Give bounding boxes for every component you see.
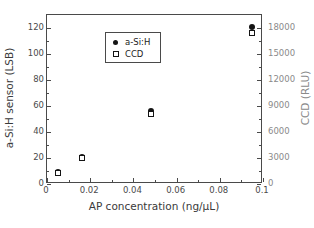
legend-marker-shape — [113, 40, 118, 45]
legend-entry-a-si-h: a-Si:H — [111, 36, 160, 48]
y-left-tick-minor — [47, 119, 49, 120]
x-axis-title: AP concentration (ng/µL) — [89, 200, 220, 212]
y-right-tick — [257, 80, 261, 81]
data-point-square — [79, 155, 85, 161]
legend-label: a-Si:H — [125, 38, 150, 47]
data-point-circle — [249, 24, 255, 30]
y-left-tick-label: 40 — [33, 127, 44, 136]
x-tick-label: 0.08 — [209, 186, 228, 195]
y-left-tick-minor — [47, 41, 49, 42]
y-right-tick — [257, 106, 261, 107]
y-left-tick-minor — [47, 93, 49, 94]
y-left-tick-minor — [47, 171, 49, 172]
y-right-tick-label: 0 — [268, 179, 273, 188]
y-left-tick-label: 100 — [28, 49, 44, 58]
y-axis-right-title: CCD (RLU) — [299, 71, 311, 126]
x-tick — [263, 178, 264, 182]
x-tick-minor — [69, 180, 70, 182]
y-right-tick-label: 18000 — [268, 23, 295, 32]
y-left-tick-label: 120 — [28, 23, 44, 32]
y-right-tick-label: 9000 — [268, 101, 290, 110]
y-left-tick-label: 20 — [33, 153, 44, 162]
chart-legend: a-Si:HCCD — [105, 32, 161, 63]
y-right-tick-minor — [259, 145, 261, 146]
y-right-tick-label: 3000 — [268, 153, 290, 162]
y-right-tick-label: 15000 — [268, 49, 295, 58]
y-right-tick-minor — [259, 41, 261, 42]
y-left-tick — [47, 80, 51, 81]
x-tick-minor — [198, 180, 199, 182]
y-right-tick-minor — [259, 93, 261, 94]
x-tick-minor — [155, 180, 156, 182]
y-right-tick — [257, 28, 261, 29]
y-left-tick — [47, 132, 51, 133]
x-tick-label: 0.06 — [166, 186, 185, 195]
y-right-tick-minor — [259, 171, 261, 172]
x-tick-minor — [112, 180, 113, 182]
y-left-tick — [47, 158, 51, 159]
y-right-tick — [257, 54, 261, 55]
y-right-tick-label: 6000 — [268, 127, 290, 136]
y-left-tick-label: 80 — [33, 75, 44, 84]
y-left-tick-label: 0 — [39, 179, 44, 188]
plot-area: a-Si:HCCD — [46, 14, 262, 183]
data-point-square — [55, 170, 61, 176]
y-right-tick-label: 12000 — [268, 75, 295, 84]
y-left-tick-label: 60 — [33, 101, 44, 110]
y-left-tick-minor — [47, 67, 49, 68]
legend-entry-ccd: CCD — [111, 48, 160, 60]
x-tick-minor — [241, 180, 242, 182]
y-right-tick — [257, 158, 261, 159]
y-left-tick-minor — [47, 145, 49, 146]
data-point-square — [148, 111, 154, 117]
y-right-tick-minor — [259, 67, 261, 68]
y-right-tick-minor — [259, 119, 261, 120]
open-square-icon — [111, 51, 120, 57]
x-tick — [90, 178, 91, 182]
x-tick — [220, 178, 221, 182]
legend-marker-shape — [113, 51, 119, 57]
x-tick — [133, 178, 134, 182]
legend-label: CCD — [125, 50, 143, 59]
x-tick-label: 0.1 — [255, 186, 269, 195]
x-tick-label: 0.02 — [80, 186, 99, 195]
data-point-square — [249, 30, 255, 36]
x-tick — [177, 178, 178, 182]
x-tick — [47, 178, 48, 182]
y-left-tick — [47, 54, 51, 55]
y-right-tick — [257, 132, 261, 133]
y-left-tick — [47, 106, 51, 107]
chart-figure: a-Si:HCCD 00.020.040.060.080.1 020406080… — [0, 0, 314, 228]
x-tick-label: 0.04 — [123, 186, 142, 195]
x-tick-label: 0 — [43, 186, 48, 195]
y-axis-left-title: a-Si:H sensor (LSB) — [3, 48, 15, 149]
y-left-tick — [47, 28, 51, 29]
filled-circle-icon — [111, 40, 120, 45]
